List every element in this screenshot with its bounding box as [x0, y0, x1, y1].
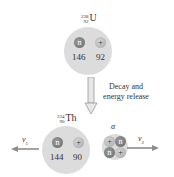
daughter-proton-count: 90 [73, 152, 82, 162]
alpha-label: α [108, 122, 118, 132]
daughter-velocity-label: v1 [22, 135, 28, 146]
decay-arrow-icon [84, 77, 98, 115]
decay-label: Decay and energy release [98, 82, 154, 102]
neutron-symbol: n [119, 138, 123, 146]
daughter-atomic-number: 90 [60, 119, 65, 124]
alpha-neutron-icon: n [104, 147, 115, 158]
daughter-nucleus [42, 126, 90, 174]
alpha-proton-icon: + [115, 147, 126, 158]
velocity-left-arrow-icon [11, 145, 39, 153]
parent-proton-count: 92 [96, 52, 105, 62]
decay-label-line1: Decay and [98, 82, 154, 92]
alpha-proton-icon: + [104, 136, 115, 147]
proton-symbol: + [76, 139, 81, 147]
daughter-neutron-count: 144 [50, 152, 64, 162]
parent-symbol: U [90, 12, 97, 23]
alpha-velocity-label: v2 [138, 134, 144, 145]
proton-symbol: + [107, 138, 112, 146]
daughter-isotope-label: 23490Th [57, 112, 77, 124]
daughter-symbol: Th [66, 112, 77, 123]
decay-label-line2: energy release [98, 92, 154, 102]
proton-symbol: + [118, 149, 123, 157]
parent-proton-icon: + [95, 37, 106, 48]
alpha-neutron-icon: n [115, 136, 126, 147]
proton-symbol: + [98, 39, 103, 47]
parent-isotope-label: 23892U [81, 12, 97, 24]
neutron-symbol: n [78, 39, 82, 47]
parent-atomic-number: 92 [84, 19, 89, 24]
daughter-isotope-numbers: 23490 [57, 114, 65, 124]
velocity-right-arrow-icon [127, 144, 159, 152]
daughter-neutron-icon: n [52, 137, 63, 148]
parent-neutron-icon: n [74, 37, 85, 48]
parent-isotope-numbers: 23892 [81, 14, 89, 24]
parent-nucleus [64, 27, 112, 75]
parent-neutron-count: 146 [72, 52, 86, 62]
neutron-symbol: n [108, 149, 112, 157]
neutron-symbol: n [56, 139, 60, 147]
daughter-proton-icon: + [73, 137, 84, 148]
